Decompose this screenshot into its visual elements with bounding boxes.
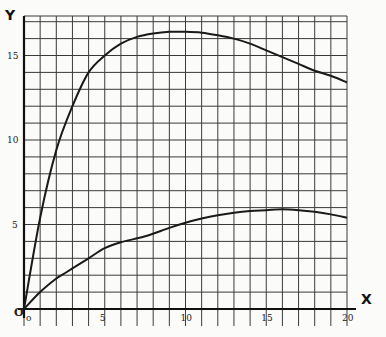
y-tick-label: 5 bbox=[12, 220, 18, 230]
grid-lines bbox=[24, 16, 347, 326]
x-axis-label: X bbox=[361, 291, 372, 307]
x-tick-label: 5 bbox=[100, 313, 106, 323]
y-axis-label: Y bbox=[4, 7, 16, 23]
chart: o510152051015 Y X O bbox=[0, 0, 386, 337]
tick-labels: o510152051015 bbox=[7, 51, 354, 324]
x-tick-label: 15 bbox=[261, 313, 273, 323]
y-tick-label: 10 bbox=[7, 135, 19, 145]
x-tick-label: 20 bbox=[342, 313, 354, 323]
y-tick-label: 15 bbox=[7, 51, 19, 61]
origin-label: O bbox=[14, 306, 24, 319]
x-tick-label: o bbox=[26, 313, 31, 323]
x-tick-label: 10 bbox=[181, 313, 193, 323]
